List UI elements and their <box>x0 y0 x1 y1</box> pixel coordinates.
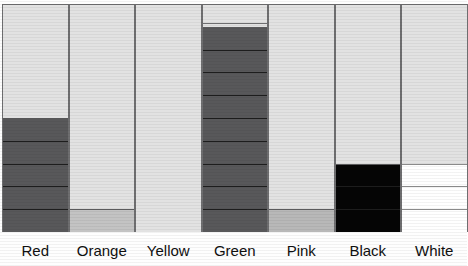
bar-column-pink <box>268 4 335 232</box>
bar-segment <box>402 209 467 232</box>
bar-segment <box>3 141 68 164</box>
column-top-strip <box>203 6 268 24</box>
bar-segment <box>70 209 135 232</box>
bar-segment <box>203 209 268 232</box>
category-label-red: Red <box>2 234 69 266</box>
bar-segment <box>203 186 268 209</box>
category-label-green: Green <box>202 234 269 266</box>
bar-segment <box>3 186 68 209</box>
bar-segment <box>3 118 68 141</box>
bar-column-green <box>202 4 269 232</box>
category-label-yellow: Yellow <box>135 234 202 266</box>
category-label-row: RedOrangeYellowGreenPinkBlackWhite <box>0 234 467 266</box>
category-label-orange: Orange <box>69 234 136 266</box>
bar-segment <box>336 164 401 187</box>
bar-segment <box>402 186 467 209</box>
chart-title <box>0 0 467 1</box>
bar-column-black <box>335 4 402 232</box>
bar-segment-stack <box>269 209 334 232</box>
bar-segment <box>3 209 68 232</box>
category-label-white: White <box>401 234 468 266</box>
bar-segment <box>203 164 268 187</box>
plot-area <box>0 4 467 232</box>
category-label-pink: Pink <box>268 234 335 266</box>
bar-segment-stack <box>70 209 135 232</box>
bar-segment-stack <box>3 118 68 232</box>
bar-segment <box>203 118 268 141</box>
bar-segment-stack <box>402 164 467 232</box>
bar-segment <box>3 164 68 187</box>
bar-segment-stack <box>203 27 268 232</box>
bar-segment-stack <box>336 164 401 232</box>
bar-segment <box>203 72 268 95</box>
bar-segment <box>203 95 268 118</box>
bar-segment <box>402 164 467 187</box>
bar-segment <box>203 50 268 73</box>
category-label-black: Black <box>335 234 402 266</box>
bar-segment <box>203 141 268 164</box>
bar-segment <box>336 209 401 232</box>
bar-segment <box>336 186 401 209</box>
bar-column-yellow <box>135 4 202 232</box>
bar-segment <box>269 209 334 232</box>
bar-column-red <box>2 4 69 232</box>
bar-column-orange <box>69 4 136 232</box>
bar-column-white <box>401 4 468 232</box>
bar-segment <box>203 27 268 50</box>
